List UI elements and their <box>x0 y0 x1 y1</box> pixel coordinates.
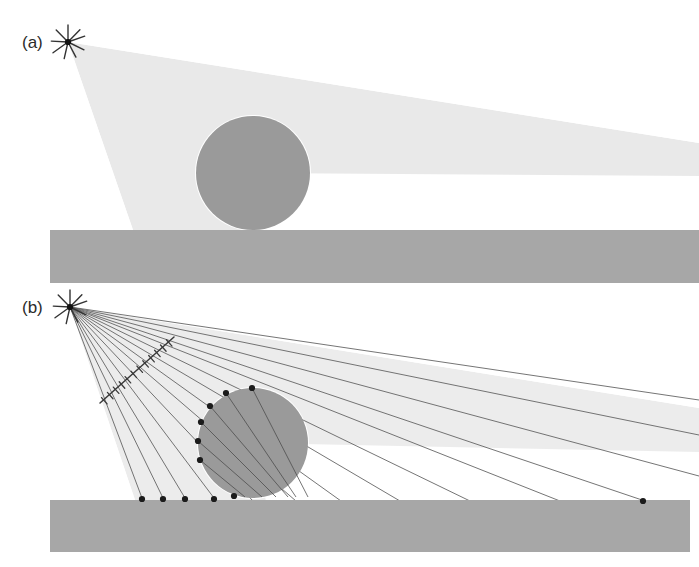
light-cone-shape-b <box>70 307 699 500</box>
hit-dot <box>211 496 217 502</box>
hit-dot <box>195 438 201 444</box>
sphere-b <box>198 388 308 498</box>
hit-dot <box>223 390 229 396</box>
hit-dot <box>182 496 188 502</box>
panel-a-light-cone <box>68 42 699 230</box>
light-source-core-b <box>67 304 73 310</box>
ground-slab-a <box>50 230 699 283</box>
hit-dot <box>197 457 203 463</box>
hit-dot <box>249 385 255 391</box>
hit-dot <box>207 403 213 409</box>
light-source-core-a <box>65 39 71 45</box>
panel-a: (a) <box>22 25 699 283</box>
figure-root: (a) <box>0 0 699 567</box>
panel-label-b: (b) <box>22 298 43 317</box>
hit-dot <box>231 493 237 499</box>
panel-b: (b) <box>22 290 699 552</box>
hit-dot <box>198 419 204 425</box>
panel-b-light-cone <box>70 307 699 500</box>
hit-dot <box>139 496 145 502</box>
panel-label-a: (a) <box>22 33 43 52</box>
light-cone-shape <box>68 42 699 230</box>
ground-slab-b <box>50 500 690 552</box>
sphere-a <box>196 116 310 230</box>
hit-dot <box>160 496 166 502</box>
ray-tracing-diagram: (a) <box>0 0 699 567</box>
hit-dot <box>640 498 646 504</box>
